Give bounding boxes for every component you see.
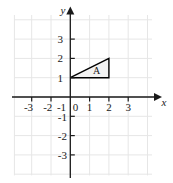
x-tick-label-2: 2 (106, 101, 112, 113)
coordinate-plane-figure: A x y (0, 0, 173, 183)
x-tick-label-neg3: -3 (24, 101, 34, 113)
y-tick-label-neg1: -1 (58, 111, 67, 123)
y-axis-label: y (60, 4, 66, 16)
origin-label: 0 (73, 101, 79, 113)
y-tick-label-3: 3 (58, 33, 64, 45)
y-tick-label-neg2: -2 (58, 130, 67, 142)
x-axis-label: x (161, 96, 167, 108)
x-tick-label-1: 1 (87, 101, 93, 113)
x-tick-label-neg2: -2 (43, 101, 52, 113)
x-tick-label-3: 3 (125, 101, 131, 113)
y-tick-label-2: 2 (58, 52, 64, 64)
triangle-a-label: A (93, 65, 101, 76)
y-tick-label-1: 1 (58, 72, 64, 84)
y-tick-label-neg3: -3 (58, 149, 68, 161)
grid-lines (14, 15, 152, 175)
y-axis-arrow-icon (66, 7, 74, 15)
